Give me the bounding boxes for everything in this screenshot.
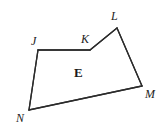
figure-canvas: J K L M N E — [0, 0, 165, 137]
vertex-label-l: L — [111, 10, 118, 22]
vertex-label-n: N — [16, 112, 24, 124]
vertex-label-j: J — [31, 35, 36, 47]
interior-region-label-e: E — [74, 66, 83, 79]
vertex-label-m: M — [145, 88, 155, 100]
vertex-label-k: K — [81, 33, 89, 45]
